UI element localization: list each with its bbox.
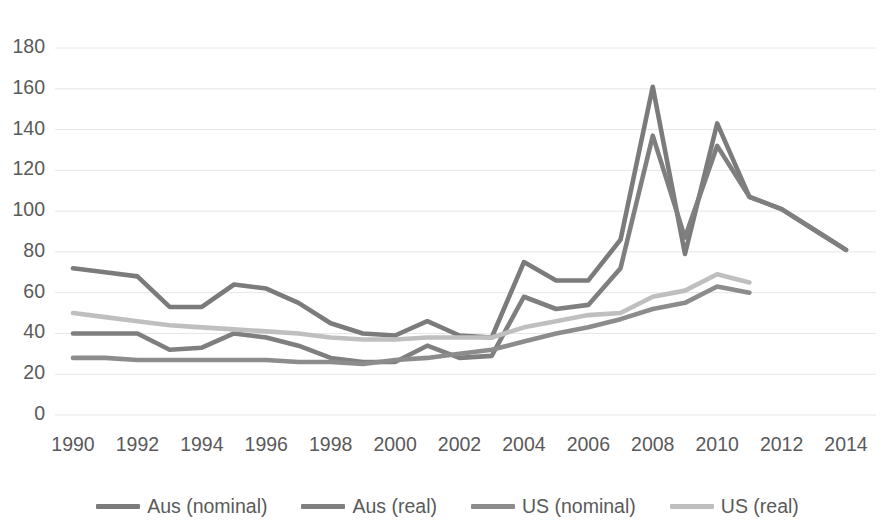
legend-item[interactable]: US (real) <box>670 495 799 518</box>
legend-swatch-icon <box>670 504 714 509</box>
series-lines <box>73 87 846 364</box>
line-chart: 020406080100120140160180 199019921994199… <box>0 0 895 530</box>
y-axis-tick-label: 140 <box>0 117 45 140</box>
y-axis-tick-label: 0 <box>0 402 45 425</box>
legend-swatch-icon <box>96 504 140 509</box>
legend-item[interactable]: US (nominal) <box>471 495 636 518</box>
legend-swatch-icon <box>301 504 345 509</box>
y-axis-tick-label: 160 <box>0 76 45 99</box>
legend-swatch-icon <box>471 504 515 509</box>
x-axis-tick-label: 2008 <box>618 433 688 456</box>
legend-label: Aus (nominal) <box>147 495 267 518</box>
x-axis-tick-label: 1990 <box>38 433 108 456</box>
y-axis-tick-label: 120 <box>0 157 45 180</box>
y-axis-tick-label: 60 <box>0 280 45 303</box>
y-axis-tick-label: 80 <box>0 239 45 262</box>
x-axis-tick-label: 1994 <box>167 433 237 456</box>
legend-item[interactable]: Aus (nominal) <box>96 495 267 518</box>
y-axis-tick-label: 40 <box>0 320 45 343</box>
legend-label: US (real) <box>721 495 799 518</box>
x-axis-tick-label: 2000 <box>360 433 430 456</box>
x-axis-tick-label: 2002 <box>425 433 495 456</box>
y-axis-tick-label: 100 <box>0 198 45 221</box>
x-axis-tick-label: 2006 <box>553 433 623 456</box>
x-axis-tick-label: 2010 <box>682 433 752 456</box>
y-axis-tick-label: 20 <box>0 361 45 384</box>
x-axis-tick-label: 1996 <box>231 433 301 456</box>
y-axis-tick-label: 180 <box>0 35 45 58</box>
legend-item[interactable]: Aus (real) <box>301 495 437 518</box>
x-axis-tick-label: 2004 <box>489 433 559 456</box>
chart-legend: Aus (nominal)Aus (real)US (nominal)US (r… <box>0 489 895 523</box>
x-axis-tick-label: 1992 <box>102 433 172 456</box>
series-line-0 <box>73 87 846 338</box>
legend-label: Aus (real) <box>352 495 437 518</box>
legend-label: US (nominal) <box>522 495 636 518</box>
x-axis-tick-label: 2012 <box>747 433 817 456</box>
x-axis-tick-label: 2014 <box>811 433 881 456</box>
x-axis-tick-label: 1998 <box>296 433 366 456</box>
